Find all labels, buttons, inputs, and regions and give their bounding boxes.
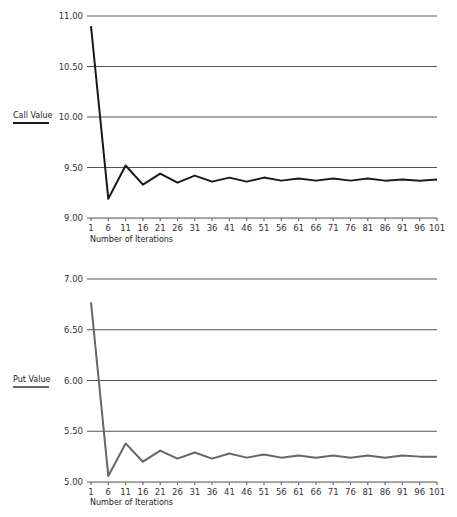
call-x-axis-title: Number of Iterations (90, 235, 173, 244)
y-tick-label: 10.50 (59, 62, 83, 72)
x-tick-label: 81 (362, 223, 373, 233)
x-tick-label: 26 (172, 223, 183, 233)
put-x-axis-title: Number of Iterations (90, 498, 173, 507)
x-tick-label: 16 (137, 223, 148, 233)
x-tick-label: 6 (106, 487, 111, 497)
x-tick-label: 1 (88, 487, 93, 497)
x-tick-label: 71 (328, 223, 339, 233)
y-tick-label: 9.50 (64, 163, 83, 173)
x-tick-label: 31 (189, 487, 200, 497)
x-tick-label: 96 (414, 487, 425, 497)
x-tick-label: 6 (106, 223, 111, 233)
x-tick-label: 86 (380, 223, 391, 233)
x-tick-label: 51 (259, 223, 270, 233)
x-tick-label: 76 (345, 223, 356, 233)
x-tick-label: 101 (429, 223, 445, 233)
x-tick-label: 66 (310, 223, 321, 233)
x-tick-label: 1 (88, 223, 93, 233)
x-tick-label: 21 (155, 487, 166, 497)
x-tick-label: 101 (429, 487, 445, 497)
x-tick-label: 41 (224, 223, 235, 233)
x-tick-label: 31 (189, 223, 200, 233)
x-tick-label: 51 (259, 487, 270, 497)
x-tick-label: 71 (328, 487, 339, 497)
x-tick-label: 41 (224, 487, 235, 497)
put-value-chart: 5.005.506.006.507.0016111621263136414651… (0, 262, 457, 517)
x-tick-label: 11 (120, 487, 131, 497)
x-tick-label: 96 (414, 223, 425, 233)
x-tick-label: 61 (293, 487, 304, 497)
series-line (91, 26, 437, 199)
y-tick-label: 10.00 (59, 112, 83, 122)
put-y-axis-label-text: Put Value (13, 375, 50, 384)
x-tick-label: 16 (137, 487, 148, 497)
call-legend-swatch (13, 122, 49, 124)
call-y-axis-label: Call Value (13, 111, 52, 124)
series-line (91, 302, 437, 476)
x-tick-label: 26 (172, 487, 183, 497)
call-value-chart: 9.009.5010.0010.5011.0016111621263136414… (0, 0, 457, 250)
y-tick-label: 9.00 (64, 213, 83, 223)
y-tick-label: 11.00 (59, 11, 83, 21)
x-tick-label: 36 (207, 487, 218, 497)
y-tick-label: 5.50 (64, 426, 83, 436)
put-plot-area: 5.005.506.006.507.0016111621263136414651… (0, 262, 457, 517)
x-tick-label: 11 (120, 223, 131, 233)
y-tick-label: 7.00 (64, 274, 83, 284)
x-tick-label: 21 (155, 223, 166, 233)
x-tick-label: 76 (345, 487, 356, 497)
x-tick-label: 91 (397, 487, 408, 497)
put-y-axis-label: Put Value (13, 375, 50, 388)
y-tick-label: 6.50 (64, 325, 83, 335)
y-tick-label: 6.00 (64, 376, 83, 386)
x-tick-label: 91 (397, 223, 408, 233)
x-tick-label: 61 (293, 223, 304, 233)
x-tick-label: 46 (241, 487, 252, 497)
y-tick-label: 5.00 (64, 477, 83, 487)
call-y-axis-label-text: Call Value (13, 111, 52, 120)
x-tick-label: 56 (276, 487, 287, 497)
x-tick-label: 81 (362, 487, 373, 497)
x-tick-label: 56 (276, 223, 287, 233)
x-tick-label: 36 (207, 223, 218, 233)
x-tick-label: 46 (241, 223, 252, 233)
x-tick-label: 86 (380, 487, 391, 497)
call-plot-area: 9.009.5010.0010.5011.0016111621263136414… (0, 0, 457, 250)
put-legend-swatch (13, 386, 49, 388)
x-tick-label: 66 (310, 487, 321, 497)
